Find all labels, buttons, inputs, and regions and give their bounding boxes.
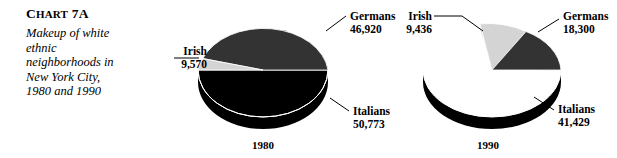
leader-irish-1990-d [462,16,483,31]
year-label-1980: 1980 [213,139,313,151]
caption-block: CHART 7A Makeup of white ethnic neighbor… [26,6,156,99]
label-germans-1990-name: Germans [563,10,608,23]
caption-line-1: Makeup of white [26,26,156,41]
label-irish-1980-name: Irish [145,45,207,58]
label-irish-1990-value: 9,436 [380,23,432,36]
caption-text: Makeup of white ethnic neighborhoods in … [26,26,156,99]
label-germans-1990: Germans 18,300 [563,10,608,36]
page-title: CHART 7A [26,6,156,22]
chart-title-number: 7A [68,6,88,21]
caption-line-2: ethnic [26,41,156,56]
year-label-1990: 1990 [438,139,538,151]
leader-italians-1990 [534,97,554,110]
chart-figure: CHART 7A Makeup of white ethnic neighbor… [0,0,617,158]
label-italians-1990: Italians 41,429 [558,103,595,129]
label-irish-1980-value: 9,570 [145,58,207,71]
leader-germans-1980 [326,16,346,31]
label-irish-1990-name: Irish [380,10,432,23]
leader-germans-1990 [538,19,559,32]
label-italians-1990-name: Italians [558,103,595,116]
label-germans-1990-value: 18,300 [563,23,608,36]
chart-title-c: C [26,6,36,21]
chart-title-hart: HART [36,8,68,20]
pie-panel-1980: Irish 9,570 Germans 46,920 Italians 50,7… [150,0,400,158]
caption-line-4: New York City, [26,70,156,85]
caption-line-3: neighborhoods in [26,55,156,70]
label-italians-1990-value: 41,429 [558,116,595,129]
pie-panel-1990: Irish 9,436 Germans 18,300 Italians 41,4… [378,0,617,158]
leader-italians-1980 [330,98,349,111]
caption-line-5: 1980 and 1990 [26,84,156,99]
label-irish-1980: Irish 9,570 [145,45,207,71]
label-irish-1990: Irish 9,436 [380,10,432,36]
